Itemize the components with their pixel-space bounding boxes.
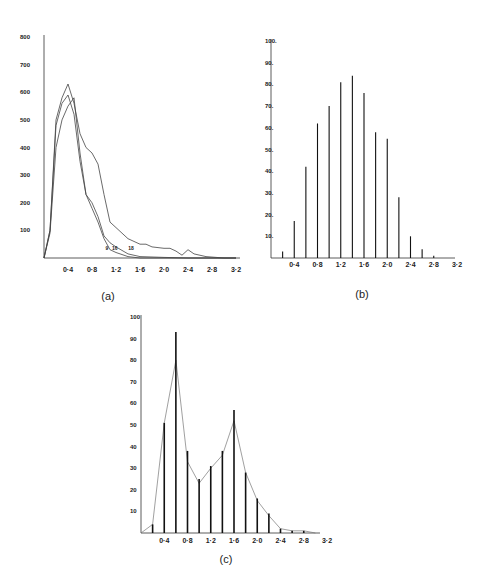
y-tick-label: 100	[130, 314, 141, 320]
x-tick-label: 2·8	[429, 261, 439, 268]
x-tick-label: 1·2	[206, 537, 216, 544]
y-tick-label: 80	[130, 357, 137, 363]
x-tick-label: 2·8	[299, 537, 309, 544]
y-tick-label: 200	[20, 200, 31, 206]
y-tick-label: 70.	[265, 103, 274, 109]
panel-label: (c)	[220, 553, 233, 565]
y-tick-label: 30	[130, 465, 137, 471]
y-tick-label: 30.	[265, 190, 274, 196]
figure-canvas: 1002003004005006007008000·40·81·21·62·02…	[0, 0, 484, 588]
y-tick-label: 60	[130, 400, 137, 406]
x-tick-label: 0·4	[63, 266, 73, 273]
y-tick-label: 90	[130, 336, 137, 342]
panel-label: (b)	[355, 288, 368, 300]
x-tick-label: 0·8	[182, 537, 192, 544]
x-tick-label: 2·4	[275, 537, 285, 544]
curve-label-9: 9	[106, 245, 109, 251]
curve-label-18: 18	[128, 245, 134, 251]
y-tick-label: 400	[20, 145, 31, 151]
x-tick-label: 0·8	[312, 261, 322, 268]
y-tick-label: 10	[130, 508, 137, 514]
x-tick-label: 0·4	[159, 537, 169, 544]
fitted-curve-line	[141, 360, 315, 533]
x-tick-label: 2·0	[159, 266, 169, 273]
y-tick-label: 20.	[265, 212, 274, 218]
y-tick-label: 10.	[265, 233, 274, 239]
x-tick-label: 2·4	[405, 261, 415, 268]
x-tick-label: 2·0	[252, 537, 262, 544]
panel-label: (a)	[101, 290, 114, 302]
x-tick-label: 3·2	[231, 266, 241, 273]
y-tick-label: 20	[130, 487, 137, 493]
x-tick-label: 0·4	[289, 261, 299, 268]
x-tick-label: 3·2	[322, 537, 332, 544]
x-tick-label: 0·8	[87, 266, 97, 273]
y-tick-label: 500	[20, 117, 31, 123]
panel-b-bar-chart: 10.20.30.40.50.60.70.80.90.100.0·40·81·2…	[265, 38, 462, 300]
x-tick-label: 2·8	[207, 266, 217, 273]
series-line-9	[44, 95, 236, 258]
panel-c-bar-chart: 1020304050607080901000·40·81·21·62·02·42…	[130, 314, 332, 565]
y-tick-label: 100	[20, 227, 31, 233]
curve-label-16: 16	[112, 245, 118, 251]
x-tick-label: 1·2	[111, 266, 121, 273]
y-tick-label: 90.	[265, 60, 274, 66]
y-tick-label: 700	[20, 62, 31, 68]
x-tick-label: 1·6	[359, 261, 369, 268]
y-tick-label: 100.	[265, 38, 277, 44]
y-tick-label: 80.	[265, 81, 274, 87]
y-tick-label: 60.	[265, 125, 274, 131]
x-tick-label: 1·6	[229, 537, 239, 544]
y-tick-label: 600	[20, 89, 31, 95]
y-tick-label: 300	[20, 172, 31, 178]
x-tick-label: 2·0	[382, 261, 392, 268]
panel-a-line-chart: 1002003004005006007008000·40·81·21·62·02…	[20, 34, 241, 302]
x-tick-label: 1·2	[336, 261, 346, 268]
y-tick-label: 800	[20, 34, 31, 40]
x-tick-label: 2·4	[183, 266, 193, 273]
series-line-16	[44, 98, 236, 258]
y-tick-label: 40	[130, 444, 137, 450]
y-tick-label: 70	[130, 379, 137, 385]
y-tick-label: 40.	[265, 168, 274, 174]
y-tick-label: 50.	[265, 147, 274, 153]
x-tick-label: 1·6	[135, 266, 145, 273]
x-tick-label: 3·2	[452, 261, 462, 268]
y-tick-label: 50	[130, 422, 137, 428]
